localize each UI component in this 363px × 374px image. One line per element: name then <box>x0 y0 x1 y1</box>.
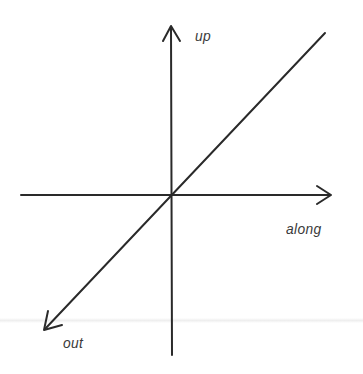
axes-drawing <box>0 0 363 374</box>
along-axis <box>21 186 331 204</box>
axes-diagram: up along out <box>0 0 363 374</box>
out-axis-line <box>45 33 325 329</box>
up-axis-label: up <box>195 28 211 43</box>
out-axis-label: out <box>63 335 83 350</box>
up-axis-line <box>171 27 172 355</box>
along-axis-label: along <box>286 221 322 236</box>
up-axis <box>163 26 180 355</box>
out-axis <box>44 33 325 330</box>
